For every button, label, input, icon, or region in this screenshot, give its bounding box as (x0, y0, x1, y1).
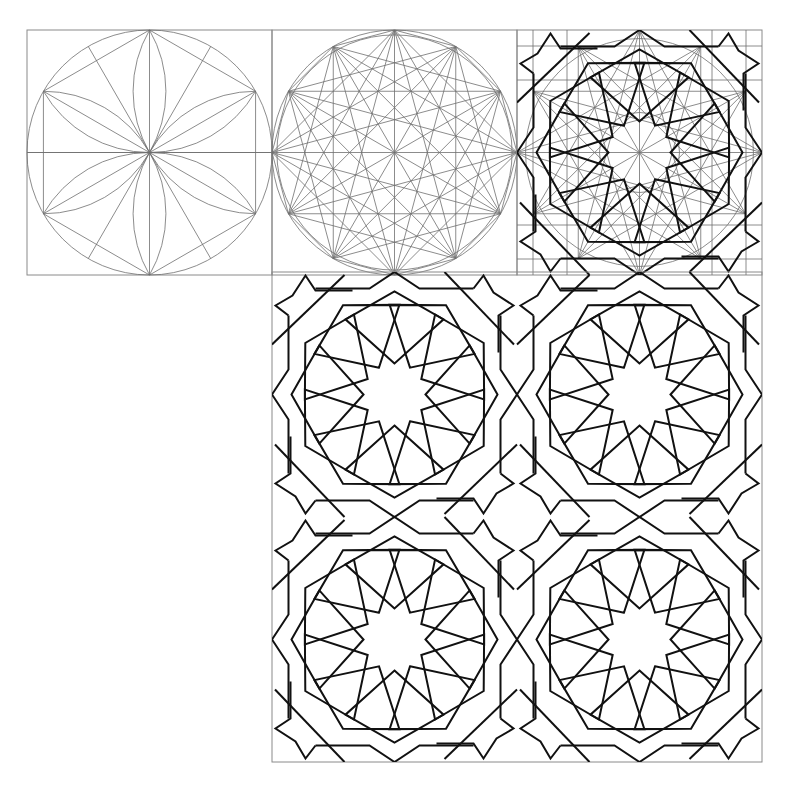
panel-step-3-pattern-over-grid (517, 30, 762, 275)
diagonal-strap (517, 275, 590, 345)
rosette-petal (421, 635, 484, 720)
rosette-petal (635, 305, 720, 368)
diagonal-strap (690, 690, 763, 760)
rosette-petal (666, 148, 729, 233)
diagonal-strap (272, 275, 345, 345)
star-polygon-edge (395, 91, 501, 275)
square-edge (333, 214, 500, 259)
dodecagon-edge (333, 259, 394, 275)
star-polygon-edge (333, 153, 517, 259)
square-edge (288, 46, 455, 91)
dodecagon-edge (456, 214, 501, 259)
star-polygon-edge (288, 91, 394, 275)
square-edge (333, 46, 500, 91)
rosette-petal (666, 559, 729, 644)
diagonal-strap (445, 445, 518, 515)
star-polygon-edge (533, 91, 700, 258)
square-edge (288, 214, 455, 259)
rosette-petal (635, 421, 720, 484)
rosette-petal (314, 421, 399, 484)
star-polygon-edge (288, 91, 455, 258)
radius-line (88, 46, 149, 152)
panel-final-rosette-pattern (272, 272, 762, 762)
diagonal-strap (517, 520, 590, 590)
rosette-petal (426, 345, 498, 443)
rosette-petal (666, 314, 729, 399)
star-polygon-edge (288, 46, 455, 213)
dodecagon-edge (272, 153, 288, 214)
rosette-petal (292, 345, 364, 443)
rosette-petal (590, 537, 688, 609)
dodecagon-edge (456, 46, 501, 91)
star-polygon-edge (395, 30, 501, 214)
dodecagon-edge (333, 30, 394, 46)
pattern-layer (272, 272, 762, 762)
rosette-petal (537, 345, 609, 443)
diagonal-strap (275, 445, 345, 518)
radius-line (150, 46, 211, 152)
dodecagon-edge (288, 214, 333, 259)
rosette-petal (635, 179, 720, 242)
diagonal-strap (690, 272, 760, 345)
rosette-petal (537, 590, 609, 688)
star-polygon-edge (333, 46, 500, 213)
star-polygon-edge (288, 30, 394, 214)
square-edge (288, 91, 333, 258)
rosette-petal (550, 148, 613, 233)
rosette-petal (390, 305, 475, 368)
rosette-petal (671, 590, 743, 688)
rosette-petal (559, 305, 644, 368)
diagonal-strap (275, 690, 345, 763)
rosette-petal (345, 292, 443, 364)
diagonal-strap (690, 445, 763, 515)
rosette-petal (559, 179, 644, 242)
rosette-petal (345, 426, 443, 498)
star-polygon-edge (578, 46, 745, 213)
rosette-petal (559, 666, 644, 729)
star-polygon-edge (578, 91, 745, 258)
panel-step-1-circle-division (27, 30, 272, 275)
rosette-petal (550, 559, 613, 644)
rosette-petal (314, 305, 399, 368)
rosette-petal (314, 550, 399, 613)
rosette-petal (421, 390, 484, 475)
star-polygon-edge (333, 46, 517, 152)
panel-step-2-dodecagon-stars (272, 30, 517, 275)
star-polygon-edge (272, 153, 456, 259)
rosette-petal (305, 559, 368, 644)
dodecagon-edge (288, 46, 333, 91)
rosette-petal (305, 635, 368, 720)
diagonal-strap (690, 517, 760, 590)
diagonal-strap (520, 690, 590, 763)
dodecagon-edge (395, 259, 456, 275)
radius-line (150, 153, 211, 259)
diagonal-strap (272, 520, 345, 590)
rosette-petal (426, 590, 498, 688)
radius-line (88, 153, 149, 259)
rosette-petal (590, 292, 688, 364)
star-polygon-edge (533, 46, 700, 213)
rosette-petal (390, 550, 475, 613)
rosette-petal (390, 421, 475, 484)
diagonal-strap (520, 445, 590, 518)
dodecagon-edge (501, 91, 517, 152)
rosette-petal (559, 421, 644, 484)
rosette-petal (421, 559, 484, 644)
rosette-petal (550, 390, 613, 475)
rosette-petal (305, 314, 368, 399)
square-edge (456, 91, 501, 258)
rosette-petal (314, 666, 399, 729)
square-edge (456, 46, 501, 213)
rosette-petal (666, 72, 729, 157)
panel-frame (272, 272, 762, 762)
rosette-petal (590, 426, 688, 498)
rosette-petal (666, 635, 729, 720)
star-polygon-edge (272, 46, 456, 152)
rosette-petal (666, 390, 729, 475)
geometric-construction-figure (0, 0, 790, 790)
rosette-petal (635, 550, 720, 613)
diagonal-strap (445, 517, 515, 590)
dodecagon-edge (272, 91, 288, 152)
rosette-petal (345, 537, 443, 609)
rosette-petal (550, 635, 613, 720)
